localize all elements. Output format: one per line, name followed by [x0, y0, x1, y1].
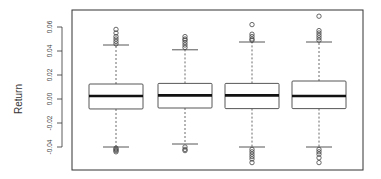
outlier-point: [317, 14, 321, 18]
y-tick-label: 0.00: [46, 92, 53, 105]
y-axis: -0.04-0.020.000.020.040.06: [46, 20, 62, 154]
y-tick-label: 0.06: [46, 20, 53, 33]
y-tick-label: 0.02: [46, 68, 53, 81]
y-tick-label: -0.04: [46, 139, 53, 154]
boxes-group: [89, 14, 346, 165]
y-axis-label: Return: [13, 84, 24, 114]
box-1: [89, 27, 143, 154]
box-plot-chart: Return -0.04-0.020.000.020.040.06: [0, 0, 381, 179]
box-4: [292, 14, 346, 165]
outlier-point: [250, 22, 254, 26]
outlier-point: [317, 160, 321, 164]
box-3: [225, 22, 279, 164]
box-2: [158, 34, 212, 152]
y-tick-label: 0.04: [46, 44, 53, 57]
y-tick-label: -0.02: [46, 115, 53, 130]
